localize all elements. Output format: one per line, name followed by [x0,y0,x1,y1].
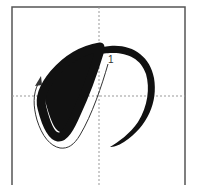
stroke-order-diagram: 1 [0,0,197,185]
arrowhead-icon [35,76,42,86]
stroke-number-label: 1 [108,54,114,65]
